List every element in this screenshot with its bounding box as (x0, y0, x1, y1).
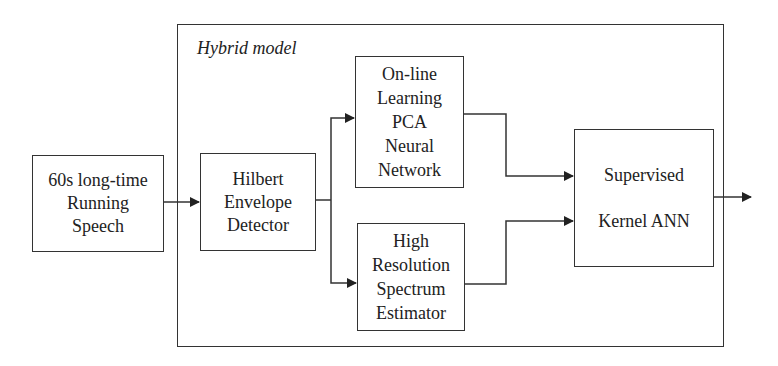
pca-line-5: Network (378, 158, 441, 182)
arrow-hilbert-to-spectrum (331, 200, 356, 283)
pca-line-4: Neural (385, 134, 434, 158)
pca-line-3: PCA (392, 110, 427, 134)
input-line-3: Speech (72, 215, 124, 238)
supervised-kernel-ann-block: Supervised Kernel ANN (574, 129, 714, 267)
input-speech-block: 60s long-time Running Speech (32, 155, 164, 252)
hilbert-line-2: Envelope (224, 191, 292, 214)
arrow-spectrum-to-kernel (464, 221, 573, 284)
kernel-line-2: Kernel ANN (598, 208, 689, 234)
hilbert-envelope-detector-block: Hilbert Envelope Detector (200, 153, 316, 251)
pca-line-1: On-line (382, 62, 437, 86)
hilbert-line-1: Hilbert (233, 168, 284, 191)
spectrum-line-4: Estimator (376, 301, 446, 325)
spectrum-line-3: Spectrum (377, 277, 446, 301)
pca-line-2: Learning (377, 86, 442, 110)
spectrum-estimator-block: High Resolution Spectrum Estimator (357, 223, 465, 331)
input-line-2: Running (67, 192, 129, 215)
spectrum-line-1: High (393, 229, 429, 253)
arrow-pca-to-kernel (463, 114, 573, 176)
hilbert-line-3: Detector (227, 214, 289, 237)
spectrum-line-2: Resolution (372, 253, 450, 277)
pca-neural-network-block: On-line Learning PCA Neural Network (355, 56, 464, 188)
kernel-line-1: Supervised (604, 162, 684, 188)
input-line-1: 60s long-time (48, 169, 148, 192)
arrow-hilbert-to-pca (331, 118, 354, 200)
